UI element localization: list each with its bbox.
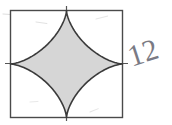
figure-canvas: 12	[0, 0, 172, 125]
stray-mark-bottom-left	[30, 101, 38, 102]
geometry-figure: 12	[0, 0, 172, 125]
